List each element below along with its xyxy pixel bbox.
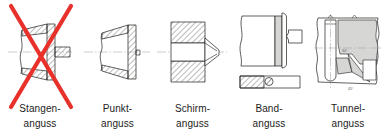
caption-line-1: Tunnel-	[308, 101, 388, 116]
caption-line-1: Schirm-	[155, 101, 230, 116]
caption-stangenanguss: Stangen- anguss	[0, 101, 80, 131]
caption-line-2: anguss	[0, 116, 80, 131]
caption-bandanguss: Band- anguss	[230, 101, 308, 131]
diagram-panel-schirmanguss: Schirm- anguss	[155, 0, 230, 140]
film-gate-diagram-icon	[230, 0, 308, 100]
diagram-panel-stangenanguss: Stangen- anguss	[0, 0, 80, 140]
pin-point-gate-diagram-icon	[80, 0, 155, 100]
caption-tunnelanguss: Tunnel- anguss	[308, 101, 388, 131]
caption-line-1: Stangen-	[0, 101, 80, 116]
caption-line-1: Punkt-	[80, 101, 155, 116]
tunnel-gate-diagram-icon: 30° 45°	[308, 0, 388, 100]
diaphragm-gate-diagram-icon	[155, 0, 230, 100]
angussarten-figure: Stangen- anguss Punkt- anguss	[0, 0, 388, 140]
caption-punktanguss: Punkt- anguss	[80, 101, 155, 131]
diagram-panel-punktanguss: Punkt- anguss	[80, 0, 155, 140]
caption-line-2: anguss	[308, 116, 388, 131]
sprue-gate-diagram-icon	[0, 0, 80, 100]
diagram-panel-tunnelanguss: 30° 45° Tunnel- anguss	[308, 0, 388, 140]
svg-text:30°: 30°	[342, 49, 348, 53]
caption-schirmanguss: Schirm- anguss	[155, 101, 230, 131]
caption-line-2: anguss	[155, 116, 230, 131]
caption-line-1: Band-	[230, 101, 308, 116]
diagram-panel-bandanguss: Band- anguss	[230, 0, 308, 140]
caption-line-2: anguss	[80, 116, 155, 131]
caption-line-2: anguss	[230, 116, 308, 131]
svg-text:45°: 45°	[348, 87, 354, 91]
